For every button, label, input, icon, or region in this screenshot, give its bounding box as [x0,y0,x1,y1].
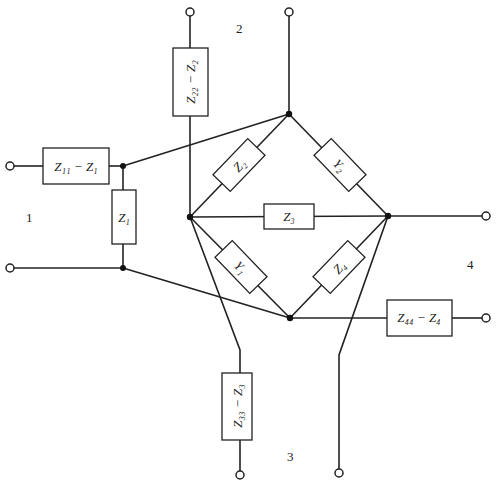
z44-label: Z₄₄ − Z₄ [397,310,441,325]
z11-impedance-box: Z₁₁ − Z₁ [43,148,109,184]
port-4-terminal-top [482,212,490,220]
z33-impedance-box: Z₃₃ − Z₃ [222,373,252,440]
bridge-node-top [286,111,292,117]
z22-impedance-box: Z₂₂ − Z₂ [173,48,208,116]
z33-label: Z₃₃ − Z₃ [230,384,245,427]
bridge-node-left [187,214,193,220]
port-1-terminal-bottom [6,264,14,272]
port-2-label: 2 [236,21,243,36]
z44-impedance-box: Z₄₄ − Z₄ [387,300,452,336]
bridge-node-right [385,213,391,219]
junction-node [120,163,126,169]
circuit-diagram: Z₁₁ − Z₁ Z₁ 1 Z₂₂ − Z₂ 2 Z₂ Y₂ [0,0,499,490]
port-1-terminal-top [6,162,14,170]
port-4-network [290,216,482,318]
junction-node [120,265,126,271]
y1-impedance-box: Y₁ [215,241,267,294]
z1-label: Z₁ [118,210,130,225]
bridge-node-bottom [287,315,293,321]
z3-impedance-box: Z₃ [264,204,314,229]
z11-label: Z₁₁ − Z₁ [54,159,97,174]
port-1-label: 1 [26,210,33,225]
y2-impedance-box: Y₂ [314,139,366,192]
port-2-terminal-left [186,8,194,16]
port-3-label: 3 [287,449,294,464]
port-3-terminal-left [236,471,244,479]
port-3-terminal-right [335,469,343,477]
port-4-label: 4 [467,257,474,272]
z22-label: Z₂₂ − Z₂ [183,60,198,104]
z1-impedance-box: Z₁ [112,190,136,244]
z3-label: Z₃ [283,209,295,224]
port-2-terminal-right [285,8,293,16]
port-4-terminal-bottom [482,314,490,322]
